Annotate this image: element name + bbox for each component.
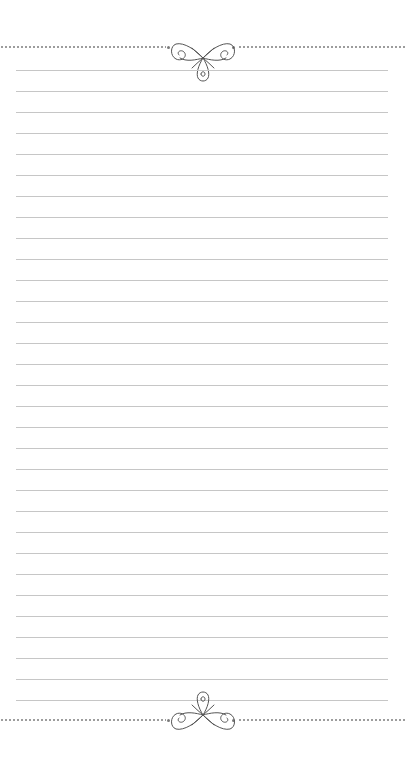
ruled-line (16, 406, 388, 407)
ruled-line (16, 364, 388, 365)
ruled-line (16, 679, 388, 680)
ruled-line (16, 490, 388, 491)
ruled-line (16, 133, 388, 134)
ruled-line (16, 595, 388, 596)
ruled-line (16, 70, 388, 71)
ruled-line (16, 175, 388, 176)
ruled-line (16, 532, 388, 533)
ruled-line (16, 217, 388, 218)
ruled-line (16, 238, 388, 239)
ruled-line (16, 385, 388, 386)
ruled-line (16, 154, 388, 155)
ruled-line (16, 280, 388, 281)
ruled-line (16, 616, 388, 617)
ruled-line (16, 259, 388, 260)
bottom-dotted-border-left (0, 719, 166, 721)
ruled-line (16, 658, 388, 659)
ruled-line (16, 196, 388, 197)
ruled-line (16, 637, 388, 638)
top-dotted-border-left (0, 46, 166, 48)
notepaper (0, 0, 406, 761)
bottom-dotted-border-right (238, 719, 406, 721)
ruled-line (16, 91, 388, 92)
ruled-line (16, 553, 388, 554)
ruled-line (16, 427, 388, 428)
ruled-line (16, 511, 388, 512)
top-dotted-border-right (238, 46, 406, 48)
ruled-line (16, 574, 388, 575)
bottom-flourish-icon (170, 689, 236, 739)
ruled-line (16, 469, 388, 470)
ruled-line (16, 301, 388, 302)
ruled-line (16, 322, 388, 323)
ruled-line (16, 448, 388, 449)
ruled-line (16, 343, 388, 344)
top-flourish-icon (170, 34, 236, 84)
ruled-line (16, 112, 388, 113)
